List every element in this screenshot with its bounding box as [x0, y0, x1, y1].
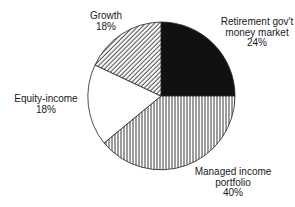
label-managed-line1: Managed income	[195, 167, 272, 178]
label-retirement-line1: Retirement gov't	[221, 17, 294, 28]
label-equity-line1: Equity-income	[14, 94, 77, 105]
label-growth: Growth 18%	[90, 11, 122, 32]
label-equity-pct: 18%	[14, 105, 77, 116]
label-managed-pct: 40%	[195, 188, 272, 199]
label-growth-pct: 18%	[90, 22, 122, 33]
label-retirement: Retirement gov't money market 24%	[221, 17, 294, 49]
label-managed: Managed income portfolio 40%	[195, 167, 272, 199]
label-equity: Equity-income 18%	[14, 94, 77, 115]
label-growth-line1: Growth	[90, 11, 122, 22]
label-retirement-pct: 24%	[221, 38, 294, 49]
